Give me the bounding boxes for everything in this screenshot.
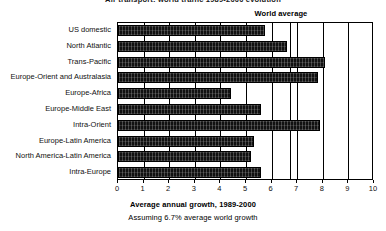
tick-label: 7 [287,184,305,193]
bar-row [118,86,372,102]
bar-row [118,134,372,150]
bar-row [118,55,372,71]
chart-title-clipped: Air transport: world traffic 1989-2000 e… [0,0,386,7]
category-axis-labels: US domesticNorth AtlanticTrans-PacificEu… [0,22,114,180]
category-label: North Atlantic [66,38,111,54]
bar-row [118,118,372,134]
bar [118,41,287,52]
tick-mark [168,180,169,183]
category-label: Intra-Orient [73,117,111,133]
tick-mark [322,180,323,183]
category-label: US domestic [68,22,111,38]
bar [118,72,318,83]
tick-label: 6 [262,184,280,193]
tick-mark [373,180,374,183]
bar [118,25,265,36]
tick-mark [194,180,195,183]
chart-container: Air transport: world traffic 1989-2000 e… [0,0,386,231]
category-label: Intra-Europe [69,164,111,180]
tick-label: 5 [236,184,254,193]
bar [118,57,325,68]
tick-mark [245,180,246,183]
category-label: Trans-Pacific [68,54,111,70]
bar [118,120,320,131]
bar [118,88,231,99]
bar [118,167,261,178]
tick-label: 8 [313,184,331,193]
bar [118,136,254,147]
bar-row [118,23,372,39]
bar [118,104,261,115]
tick-mark [271,180,272,183]
bar-row [118,102,372,118]
chart-title-text: Air transport: world traffic 1989-2000 e… [0,0,386,4]
tick-mark [347,180,348,183]
category-label: Europe-Orient and Australasia [11,69,111,85]
plot-area [117,22,373,180]
axis-caption-primary: Average annual growth, 1989-2000 [0,200,386,209]
tick-label: 9 [338,184,356,193]
tick-mark [117,180,118,183]
tick-mark [219,180,220,183]
tick-mark [143,180,144,183]
bar [118,151,251,162]
bar-row [118,70,372,86]
bar-row [118,39,372,55]
category-label: North America-Latin America [16,148,111,164]
tick-label: 2 [159,184,177,193]
world-average-annotation-label: World average [255,9,308,18]
category-label: Europe-Latin America [39,133,111,149]
tick-label: 4 [210,184,228,193]
bar-series [118,23,372,179]
bar-row [118,165,372,181]
axis-caption-secondary: Assuming 6.7% average world growth [0,213,386,222]
tick-label: 10 [364,184,382,193]
value-axis: 012345678910 [117,180,373,194]
category-label: Europe-Middle East [45,101,111,117]
category-label: Europe-Africa [65,85,111,101]
tick-label: 0 [108,184,126,193]
bar-row [118,149,372,165]
tick-mark [296,180,297,183]
tick-label: 1 [134,184,152,193]
tick-label: 3 [185,184,203,193]
